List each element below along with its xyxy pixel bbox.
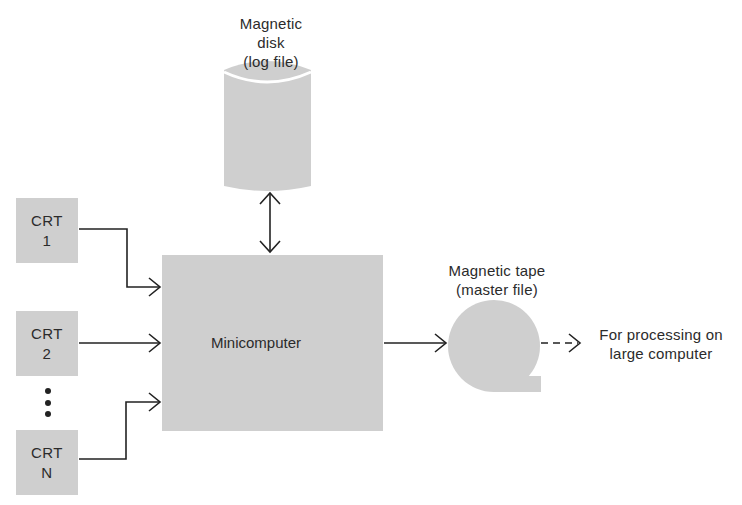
crt-1-box: CRT 1	[16, 198, 78, 263]
magnetic-tape-title: Magnetic tape	[441, 261, 553, 280]
minicomputer-label: Minicomputer	[211, 334, 301, 352]
tape-to-large-computer-dashed-arrow	[541, 334, 580, 352]
large-computer-destination-label: For processing on large computer	[586, 325, 736, 363]
crt2-to-minicomputer-arrow	[79, 334, 160, 352]
crt-1-number: 1	[43, 231, 52, 251]
crt-n-label: CRT	[31, 443, 63, 463]
ellipsis-dot-icon	[45, 411, 51, 417]
magnetic-tape-subtitle: (master file)	[441, 280, 553, 299]
crt-n-number: N	[41, 463, 52, 483]
crtn-to-minicomputer-arrow	[79, 393, 160, 459]
crt-2-label: CRT	[31, 324, 63, 344]
magnetic-disk-subtitle: (log file)	[226, 52, 316, 71]
ellipsis-dot-icon	[45, 388, 51, 394]
destination-line-2: large computer	[586, 344, 736, 363]
minicomputer-to-tape-arrow	[384, 334, 446, 352]
destination-line-1: For processing on	[586, 325, 736, 344]
magnetic-tape-label: Magnetic tape (master file)	[441, 261, 553, 299]
disk-minicomputer-two-way-arrow	[260, 193, 280, 252]
crt-1-label: CRT	[31, 211, 63, 231]
magnetic-tape-reel-icon	[448, 300, 541, 392]
crt-2-box: CRT 2	[16, 311, 78, 376]
magnetic-disk-title: Magnetic disk	[226, 14, 316, 52]
crt-2-number: 2	[43, 344, 52, 364]
crt-n-box: CRT N	[16, 430, 78, 495]
magnetic-disk-cylinder-icon	[224, 61, 311, 191]
crt1-to-minicomputer-arrow	[79, 229, 160, 296]
magnetic-disk-label: Magnetic disk (log file)	[226, 14, 316, 71]
ellipsis-dot-icon	[45, 400, 51, 406]
